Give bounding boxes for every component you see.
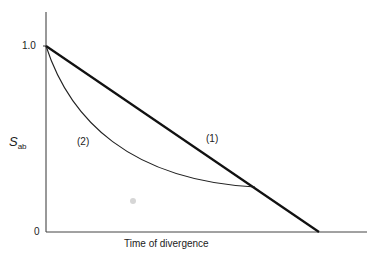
y-tick-label-zero: 0 (34, 226, 40, 237)
x-axis-label: Time of divergence (124, 238, 209, 249)
smudge-mark (130, 198, 136, 204)
y-tick-label-top: 1.0 (22, 40, 36, 51)
y-axis-label-main: S (9, 134, 18, 149)
curve-2-label: (2) (77, 136, 89, 147)
chart-canvas (0, 0, 371, 258)
curve-1-label: (1) (206, 133, 218, 144)
y-axis-label-sub: ab (18, 142, 27, 151)
y-axis-label: Sab (9, 134, 27, 151)
